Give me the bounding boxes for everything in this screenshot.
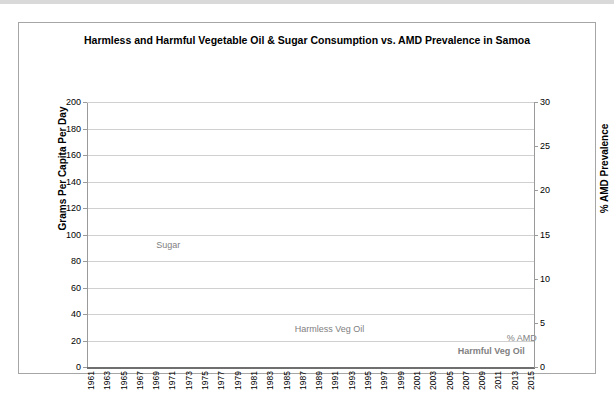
x-axis-tick-label: 1977 — [216, 371, 226, 390]
y-axis-left-tick — [83, 314, 87, 315]
gridline — [87, 182, 535, 183]
y-axis-right-tick — [534, 146, 538, 147]
x-axis-tick-label: 1993 — [347, 371, 357, 390]
y-axis-right-line — [534, 103, 535, 368]
x-axis-tick-label: 1975 — [200, 371, 210, 390]
y-axis-right-tick — [534, 190, 538, 191]
y-axis-right-tick — [534, 367, 538, 368]
y-axis-right-tick — [534, 235, 538, 236]
y-axis-right-tick-label: 25 — [540, 142, 564, 151]
gridline — [87, 288, 535, 289]
gridline — [87, 155, 535, 156]
x-axis-tick-labels: 1961196319651967196919711973197519771979… — [87, 371, 535, 407]
y-axis-right-tick-label: 15 — [540, 231, 564, 240]
y-axis-right-tick-label: 20 — [540, 186, 564, 195]
x-axis-tick-label: 1991 — [330, 371, 340, 390]
gridline — [87, 208, 535, 209]
x-axis-tick-label: 1981 — [249, 371, 259, 390]
sugar-series-label: Sugar — [156, 240, 180, 250]
plot-area: SugarHarmless Veg OilHarmful Veg Oil% AM… — [87, 103, 535, 368]
amd-series-label: % AMD — [507, 333, 537, 343]
y-axis-right-tick-label: 10 — [540, 275, 564, 284]
y-axis-right-title: % AMD Prevalence — [599, 79, 610, 259]
y-axis-left-tick — [83, 235, 87, 236]
harmless-veg-oil-series-label: Harmless Veg Oil — [295, 324, 365, 334]
y-axis-right-tick — [534, 102, 538, 103]
y-axis-left-tick — [83, 182, 87, 183]
x-axis-tick-label: 2011 — [493, 371, 503, 389]
y-axis-left-tick-label: 60 — [51, 284, 81, 293]
harmful-veg-oil-series-label: Harmful Veg Oil — [458, 346, 525, 356]
x-axis-tick-label: 1973 — [184, 371, 194, 390]
x-axis-tick-label: 1997 — [379, 371, 389, 390]
gridline — [87, 341, 535, 342]
gridline — [87, 235, 535, 236]
y-axis-left-title: Grams Per Capita Per Day — [57, 79, 68, 259]
x-axis-tick-label: 1985 — [282, 371, 292, 390]
y-axis-right-tick — [534, 279, 538, 280]
x-axis-tick-label: 2009 — [477, 371, 487, 390]
y-axis-left-line — [87, 103, 88, 368]
x-axis-tick-label: 1999 — [396, 371, 406, 390]
x-axis-tick-label: 2001 — [412, 371, 422, 390]
gridline — [87, 129, 535, 130]
x-axis-tick-label: 2007 — [461, 371, 471, 390]
chart-container: Harmless and Harmful Vegetable Oil & Sug… — [18, 22, 596, 374]
y-axis-left-tick — [83, 261, 87, 262]
y-axis-left-tick — [83, 129, 87, 130]
x-axis-tick-label: 1983 — [265, 371, 275, 390]
y-axis-right-tick-label: 5 — [540, 319, 564, 328]
x-axis-tick-label: 1979 — [233, 371, 243, 390]
y-axis-left-tick — [83, 367, 87, 368]
top-divider-strip — [0, 0, 614, 4]
x-axis-tick-label: 1963 — [102, 371, 112, 390]
y-axis-left-tick — [83, 102, 87, 103]
x-axis-tick-label: 1971 — [167, 371, 177, 390]
x-axis-tick-label: 2015 — [526, 371, 536, 390]
x-axis-tick-label: 2013 — [510, 371, 520, 390]
x-axis-tick-label: 2003 — [428, 371, 438, 390]
x-axis-tick-label: 1961 — [86, 371, 96, 390]
gridline — [87, 102, 535, 103]
x-axis-tick-label: 1967 — [135, 371, 145, 390]
chart-title: Harmless and Harmful Vegetable Oil & Sug… — [67, 33, 547, 48]
x-axis-tick-label: 1995 — [363, 371, 373, 390]
y-axis-right-tick — [534, 323, 538, 324]
y-axis-left-tick-label: 0 — [51, 363, 81, 372]
y-axis-left-tick — [83, 155, 87, 156]
gridline — [87, 314, 535, 315]
y-axis-right-tick-label: 0 — [540, 363, 564, 372]
y-axis-right-tick-label: 30 — [540, 98, 564, 107]
x-axis-tick-label: 1989 — [314, 371, 324, 390]
x-axis-tick-label: 1965 — [119, 371, 129, 390]
y-axis-left-tick-label: 40 — [51, 310, 81, 319]
x-axis-tick-label: 1969 — [151, 371, 161, 390]
y-axis-right-tick-labels: 051015202530 — [540, 103, 570, 368]
gridline — [87, 261, 535, 262]
x-axis-tick-label: 1987 — [298, 371, 308, 390]
y-axis-left-tick — [83, 208, 87, 209]
y-axis-left-tick-label: 20 — [51, 337, 81, 346]
y-axis-left-tick — [83, 341, 87, 342]
y-axis-left-tick — [83, 288, 87, 289]
x-axis-tick-label: 2005 — [445, 371, 455, 390]
x-axis-line — [87, 367, 535, 369]
